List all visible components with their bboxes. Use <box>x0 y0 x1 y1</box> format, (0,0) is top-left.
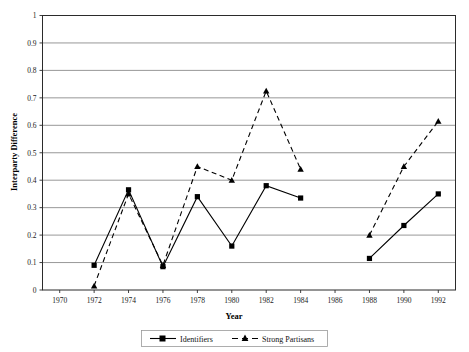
y-tick-label: 0 <box>33 286 37 295</box>
x-tick-labels: 1970197219741976197819801982198419861988… <box>52 296 446 305</box>
legend-label-strong-partisans: Strong Partisans <box>262 335 314 344</box>
data-point-marker <box>263 88 269 94</box>
data-point-marker <box>367 256 372 261</box>
data-point-marker <box>435 118 441 124</box>
y-tick-label: 0.4 <box>27 176 37 185</box>
x-tick-label: 1980 <box>224 296 239 305</box>
x-tick-label: 1972 <box>87 296 102 305</box>
data-point-marker <box>91 283 97 289</box>
y-tick-label: 0.5 <box>27 149 37 158</box>
data-point-marker <box>194 163 200 169</box>
data-point-marker <box>195 194 200 199</box>
data-point-marker <box>298 195 303 200</box>
data-point-marker <box>401 223 406 228</box>
legend-marker-square-icon <box>160 336 166 342</box>
y-tick-label: 0.3 <box>27 203 37 212</box>
y-tick-label: 0.1 <box>27 258 37 267</box>
x-tick-label: 1990 <box>396 296 411 305</box>
y-tick-label: 0.6 <box>27 121 37 130</box>
data-point-marker <box>229 243 234 248</box>
chart-legend: Identifiers Strong Partisans <box>142 331 328 347</box>
y-tick-labels: 00.10.20.30.40.50.60.70.80.91 <box>27 11 37 295</box>
y-tick-label: 1 <box>33 11 37 20</box>
x-tick-label: 1974 <box>121 296 136 305</box>
horizontal-gridlines <box>43 43 456 263</box>
x-tick-label: 1970 <box>52 296 67 305</box>
data-point-marker <box>436 191 441 196</box>
x-tick-label: 1988 <box>362 296 377 305</box>
x-tick-label: 1978 <box>190 296 205 305</box>
x-tick-label: 1984 <box>293 296 308 305</box>
y-axis-title: Interparty Difference <box>9 113 19 191</box>
x-axis-title: Year <box>226 311 243 321</box>
data-point-marker <box>297 166 303 172</box>
y-tick-label: 0.9 <box>27 39 37 48</box>
interparty-difference-line-chart: 00.10.20.30.40.50.60.70.80.91 1970197219… <box>0 0 469 352</box>
x-tick-label: 1982 <box>259 296 274 305</box>
x-tick-label: 1986 <box>328 296 343 305</box>
data-point-marker <box>264 183 269 188</box>
y-tick-label: 0.7 <box>27 94 37 103</box>
series-line <box>369 121 438 235</box>
legend-label-identifiers: Identifiers <box>180 335 213 344</box>
y-tick-label: 0.2 <box>27 231 37 240</box>
series-line <box>94 91 301 286</box>
y-tick-label: 0.8 <box>27 66 37 75</box>
x-tick-label: 1976 <box>155 296 170 305</box>
chart-container: 00.10.20.30.40.50.60.70.80.91 1970197219… <box>0 0 469 352</box>
data-point-marker <box>92 263 97 268</box>
x-tick-label: 1992 <box>431 296 446 305</box>
